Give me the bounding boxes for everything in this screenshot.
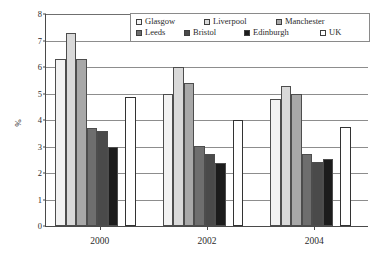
legend-item-leeds[interactable]: Leeds [134,27,182,38]
legend-swatch-icon [276,19,282,25]
bar-liverpool-2002 [173,67,184,226]
legend-label: Edinburgh [253,27,289,38]
bar-leeds-2000 [87,128,98,226]
legend-label: Leeds [145,27,165,38]
legend-item-uk[interactable]: UK [318,27,358,38]
y-tick-label: 1 [38,195,42,205]
y-tick-label: 3 [38,142,42,152]
legend-label: Manchester [285,16,325,27]
legend-swatch-icon [136,30,142,36]
bar-bristol-2000 [97,131,108,226]
y-tick-label: 7 [38,36,42,46]
legend-swatch-icon [204,19,210,25]
x-tick-mark [207,226,208,230]
bar-glasgow-2004 [270,99,281,226]
x-tick-mark [100,226,101,230]
plot-area: 012345678 200020022004 [45,14,368,227]
bar-bristol-2002 [205,154,216,226]
y-tick-label: 6 [38,62,42,72]
bar-liverpool-2000 [66,33,77,226]
legend-item-glasgow[interactable]: Glasgow [134,16,202,27]
bar-chart: % 012345678 200020022004 GlasgowLiverpoo… [0,0,380,261]
bar-glasgow-2002 [163,94,174,227]
x-tick-mark [314,226,315,230]
legend-swatch-icon [184,30,190,36]
legend-item-bristol[interactable]: Bristol [182,27,242,38]
legend-label: UK [329,27,341,38]
x-tick-label: 2000 [90,236,109,246]
legend-item-liverpool[interactable]: Liverpool [202,16,274,27]
bar-edinburgh-2004 [323,159,334,226]
legend-label: Glasgow [145,16,175,27]
y-tick-label: 4 [38,115,42,125]
y-axis-label: % [13,119,23,127]
bar-uk-2004 [340,127,351,226]
legend-swatch-icon [320,30,326,36]
bar-edinburgh-2002 [215,163,226,226]
bar-leeds-2004 [302,154,313,226]
bar-group [153,14,260,226]
legend-swatch-icon [244,30,250,36]
legend-label: Liverpool [213,16,247,27]
bar-liverpool-2004 [281,86,292,226]
bar-uk-2000 [125,97,136,226]
bar-group [46,14,153,226]
bar-bristol-2004 [312,162,323,226]
legend-label: Bristol [193,27,216,38]
legend: GlasgowLiverpoolManchesterLeedsBristolEd… [130,13,370,42]
bar-manchester-2004 [291,94,302,227]
bar-uk-2002 [233,120,244,226]
bar-edinburgh-2000 [108,147,119,227]
bar-group [261,14,368,226]
bar-glasgow-2000 [55,59,66,226]
legend-item-edinburgh[interactable]: Edinburgh [242,27,318,38]
y-tick-label: 8 [38,9,42,19]
y-tick-label: 0 [38,221,42,231]
bar-manchester-2002 [184,83,195,226]
bar-manchester-2000 [76,59,87,226]
y-tick-label: 5 [38,89,42,99]
bar-leeds-2002 [194,146,205,226]
legend-swatch-icon [136,19,142,25]
x-tick-label: 2002 [198,236,217,246]
legend-item-manchester[interactable]: Manchester [274,16,354,27]
x-tick-label: 2004 [305,236,324,246]
y-tick-label: 2 [38,168,42,178]
